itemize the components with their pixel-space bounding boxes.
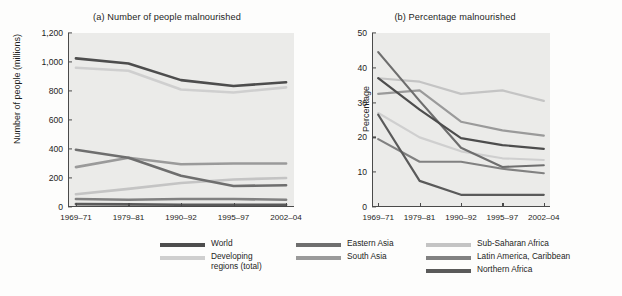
y-tick-mark: [372, 172, 376, 173]
panel-a-plot-area: 02004006008001,0001,2001969–711979–81199…: [68, 33, 294, 207]
x-tick-mark: [544, 203, 545, 207]
x-tick-label: 1990–92: [445, 213, 477, 222]
x-tick-mark: [378, 203, 379, 207]
legend-item-developing_regions_total[interactable]: Developing regions (total): [160, 252, 290, 271]
x-tick-label: 1990–92: [165, 213, 197, 222]
y-tick-mark: [372, 206, 376, 207]
x-tick-mark: [76, 203, 77, 207]
legend-label-developing_regions_total: Developing regions (total): [211, 252, 262, 271]
y-tick-mark: [372, 102, 376, 103]
x-tick-label: 1979–81: [404, 213, 436, 222]
series-line-latin_america_caribbean: [76, 199, 286, 200]
y-tick-mark: [372, 32, 376, 33]
legend-swatch-developing_regions_total: [160, 256, 205, 260]
series-line-eastern_asia: [378, 52, 544, 167]
legend-item-world[interactable]: World: [160, 239, 290, 249]
legend-label-eastern_asia: Eastern Asia: [347, 239, 394, 249]
y-tick-label: 400: [28, 144, 63, 154]
legend-swatch-south_asia: [296, 256, 341, 260]
panel-a-lines: [68, 33, 294, 207]
series-line-world: [378, 78, 544, 149]
y-tick-mark: [372, 67, 376, 68]
y-tick-mark: [372, 137, 376, 138]
legend-item-northern_africa[interactable]: Northern Africa: [426, 265, 616, 275]
y-tick-label: 800: [28, 86, 63, 96]
series-line-world: [76, 58, 286, 86]
chart-panel-a: (a) Number of people malnourished Number…: [0, 0, 312, 232]
legend-column-1: WorldDeveloping regions (total): [160, 239, 290, 275]
legend-swatch-latin_america_caribbean: [426, 256, 471, 260]
legend-item-eastern_asia[interactable]: Eastern Asia: [296, 239, 426, 249]
y-tick-label: 30: [332, 98, 367, 108]
legend-label-sub_saharan_africa: Sub-Saharan Africa: [477, 239, 549, 249]
x-tick-label: 1969–71: [60, 213, 92, 222]
x-tick-mark: [234, 203, 235, 207]
x-tick-label: 1995–97: [487, 213, 519, 222]
x-tick-mark: [420, 203, 421, 207]
panel-b-lines: [372, 33, 550, 207]
panel-a-title: (a) Number of people malnourished: [0, 12, 312, 22]
x-tick-label: 2002–04: [270, 213, 302, 222]
y-tick-label: 200: [28, 173, 63, 183]
series-line-eastern_asia: [76, 150, 286, 186]
y-tick-mark: [68, 61, 72, 62]
legend-swatch-sub_saharan_africa: [426, 243, 471, 247]
legend-label-world: World: [211, 239, 233, 249]
y-tick-mark: [68, 119, 72, 120]
y-tick-label: 0: [332, 202, 367, 212]
x-tick-label: 1979–81: [113, 213, 145, 222]
x-tick-label: 1995–97: [218, 213, 250, 222]
series-line-south_asia: [76, 158, 286, 167]
y-tick-label: 0: [28, 202, 63, 212]
panel-b-title: (b) Percentage malnourished: [310, 12, 622, 22]
y-tick-mark: [68, 206, 72, 207]
panel-b-plot-area: 010203040501969–711979–811990–921995–972…: [372, 33, 550, 207]
y-tick-label: 40: [332, 63, 367, 73]
x-tick-mark: [128, 203, 129, 207]
legend-label-northern_africa: Northern Africa: [477, 265, 532, 275]
y-tick-label: 50: [332, 28, 367, 38]
legend: WorldDeveloping regions (total) Eastern …: [0, 236, 622, 296]
legend-item-latin_america_caribbean[interactable]: Latin America, Caribbean: [426, 252, 616, 262]
legend-item-south_asia[interactable]: South Asia: [296, 252, 426, 262]
x-tick-mark: [181, 203, 182, 207]
y-tick-label: 1,200: [28, 28, 63, 38]
legend-label-south_asia: South Asia: [347, 252, 387, 262]
y-tick-label: 20: [332, 132, 367, 142]
y-tick-mark: [68, 90, 72, 91]
legend-item-sub_saharan_africa[interactable]: Sub-Saharan Africa: [426, 239, 616, 249]
legend-swatch-eastern_asia: [296, 243, 341, 247]
x-tick-label: 2002–04: [528, 213, 560, 222]
y-tick-label: 1,000: [28, 57, 63, 67]
y-tick-mark: [68, 32, 72, 33]
x-tick-mark: [461, 203, 462, 207]
x-tick-mark: [286, 203, 287, 207]
y-tick-label: 10: [332, 167, 367, 177]
legend-label-latin_america_caribbean: Latin America, Caribbean: [477, 252, 570, 262]
legend-swatch-world: [160, 243, 205, 247]
x-tick-label: 1969–71: [362, 213, 394, 222]
y-tick-mark: [68, 177, 72, 178]
legend-swatch-northern_africa: [426, 269, 471, 273]
x-tick-mark: [502, 203, 503, 207]
panel-a-y-axis-label: Number of people (millions): [12, 9, 22, 169]
figure-container: (a) Number of people malnourished Number…: [0, 0, 622, 296]
y-tick-mark: [68, 148, 72, 149]
legend-column-3: Sub-Saharan AfricaLatin America, Caribbe…: [426, 239, 616, 278]
y-tick-label: 600: [28, 115, 63, 125]
legend-column-2: Eastern AsiaSouth Asia: [296, 239, 426, 265]
